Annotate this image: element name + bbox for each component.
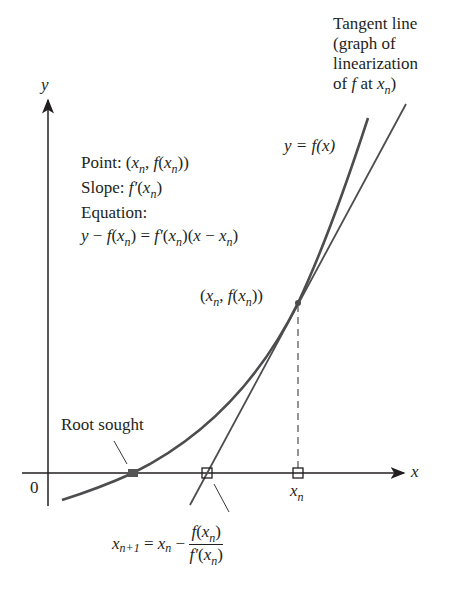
tangent-point-label: (xn, f(xn)) xyxy=(200,286,263,307)
x-axis-label: x xyxy=(411,462,419,482)
xn-label: xn xyxy=(290,481,304,502)
function-curve xyxy=(62,118,368,500)
tangent-line-label-4: of f at xn) xyxy=(333,74,396,95)
point-info-point: Point: (xn, f(xn)) xyxy=(81,153,189,174)
point-info-equation-heading: Equation: xyxy=(81,203,147,223)
point-info-slope: Slope: f′(xn) xyxy=(81,178,162,199)
formula-leader-line xyxy=(214,484,229,512)
tangent-line-label-3: linearization xyxy=(333,54,418,74)
root-leader-line xyxy=(114,441,127,464)
root-marker xyxy=(128,469,138,477)
y-axis-label: y xyxy=(41,75,49,95)
formula-fraction: f(xn) f′(xn) xyxy=(189,522,223,566)
tangent-point-marker xyxy=(295,300,301,306)
root-sought-label: Root sought xyxy=(61,415,144,435)
tangent-line-label-1: Tangent line xyxy=(333,14,417,34)
tangent-line-label-2: (graph of xyxy=(333,34,396,54)
origin-label: 0 xyxy=(30,478,39,498)
newton-update-formula: xn+1 = xn − f(xn) f′(xn) xyxy=(112,522,223,566)
point-info-equation: y − f(xn) = f′(xn)(x − xn) xyxy=(81,226,238,247)
curve-label: y = f(x) xyxy=(284,136,335,156)
